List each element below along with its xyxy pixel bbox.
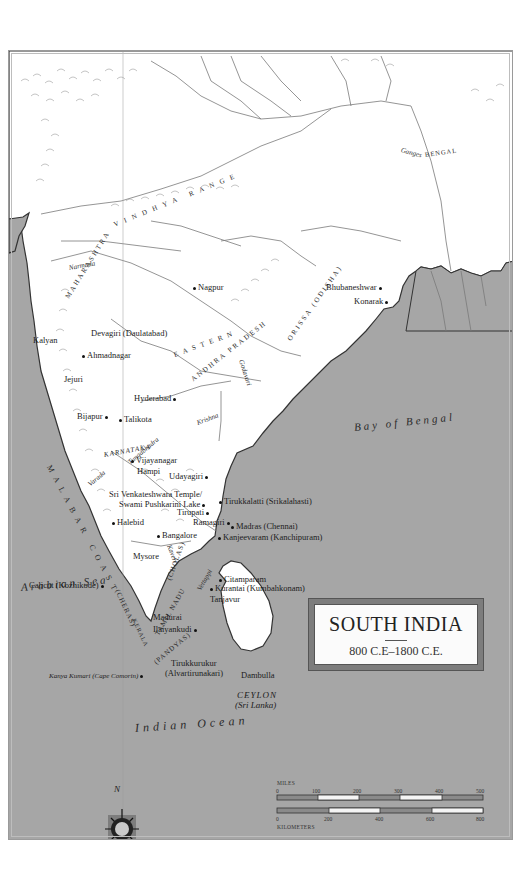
miles-tick: 200 — [353, 788, 361, 794]
place-kanjeevaram: Kanjeevaram (Kanchipuram) — [218, 533, 322, 542]
km-tick: 200 — [324, 816, 332, 822]
map-title: SOUTH INDIA — [315, 605, 477, 636]
place-madurai: Madurai — [153, 613, 182, 622]
miles-tick: 100 — [312, 788, 320, 794]
scale-miles-label: MILES — [277, 780, 295, 786]
place-halebid: Halebid — [112, 518, 144, 527]
map-frame: Bay of Bengal Arabian Sea Indian Ocean B… — [8, 50, 513, 840]
place-jejuri: Jejuri — [64, 375, 83, 384]
place-tirupati: Tirupati — [177, 508, 209, 517]
place-dambulla: Dambulla — [241, 671, 275, 680]
km-tick: 800 — [476, 816, 484, 822]
miles-tick: 0 — [276, 788, 279, 794]
place-devagiri: Devagiri (Daulatabad) — [91, 329, 167, 338]
map-shapes — [9, 51, 513, 840]
place-madras: Madras (Chennai) — [231, 522, 298, 531]
place-vijayanagar: Vijayanagar — [131, 456, 177, 465]
place-talikota: Talikota — [119, 415, 152, 424]
scale-km-label: KILOMETERS — [277, 824, 315, 830]
place-tirukkalatti: Tirukkalatti (Srikalahasti) — [219, 497, 312, 506]
compass-rose: N — [104, 813, 140, 840]
bengal-delta — [406, 261, 513, 331]
title-divider — [385, 640, 407, 641]
region-sri-lanka: (Sri Lanka) — [235, 701, 276, 710]
place-tirukkurukur: Tirukkurukur — [171, 659, 217, 668]
place-bijapur: Bijapur — [77, 412, 108, 421]
miles-tick: 500 — [476, 788, 484, 794]
place-ahmadnagar: Ahmadnagar — [82, 351, 131, 360]
place-ramagiri: Ramagiri — [193, 518, 230, 527]
place-tanjavur: Tanjavur — [210, 595, 240, 604]
place-hyderabad: Hyderabad — [134, 394, 176, 403]
place-hampi: Hampi — [137, 467, 160, 476]
place-alvartirunakari: (Alvartirunakari) — [165, 669, 223, 678]
place-kurantai: Kurantai (Kumbahkonam) — [210, 584, 305, 593]
place-kanya-kumari: Kanya Kumari (Cape Comorin) — [49, 673, 143, 680]
scale-bars — [277, 795, 483, 813]
place-nagpur: Nagpur — [193, 283, 224, 292]
km-tick: 600 — [426, 816, 434, 822]
compass-north: N — [114, 785, 120, 794]
region-ceylon: CEYLON — [237, 691, 277, 700]
place-calicut: Calicut (Kozhikode) — [29, 581, 104, 590]
miles-tick: 400 — [435, 788, 443, 794]
place-mysore: Mysore — [133, 552, 159, 561]
place-sri-venkateshwara: Sri Venkateshwara Temple/ — [109, 490, 202, 499]
place-ilaiyankudi: Ilaiyankudi — [153, 625, 197, 634]
km-tick: 400 — [375, 816, 383, 822]
map-dates: 800 C.E–1800 C.E. — [315, 644, 477, 659]
km-tick: 0 — [276, 816, 279, 822]
place-bhubaneshwar: Bhubaneshwar — [326, 283, 382, 292]
place-udayagiri: Udayagiri — [169, 472, 208, 481]
place-bangalore: Bangalore — [157, 531, 197, 540]
title-cartouche: SOUTH INDIA 800 C.E–1800 C.E. — [308, 598, 484, 671]
miles-tick: 300 — [394, 788, 402, 794]
place-kalyan: Kalyan — [33, 336, 58, 345]
place-konarak: Konarak — [354, 297, 388, 306]
